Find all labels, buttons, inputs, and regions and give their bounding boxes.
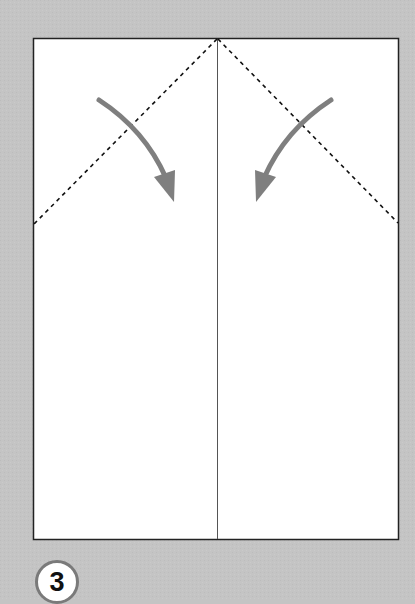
paper-rectangle <box>34 39 399 540</box>
step-number: 3 <box>49 567 64 598</box>
step-number-badge: 3 <box>35 560 79 604</box>
